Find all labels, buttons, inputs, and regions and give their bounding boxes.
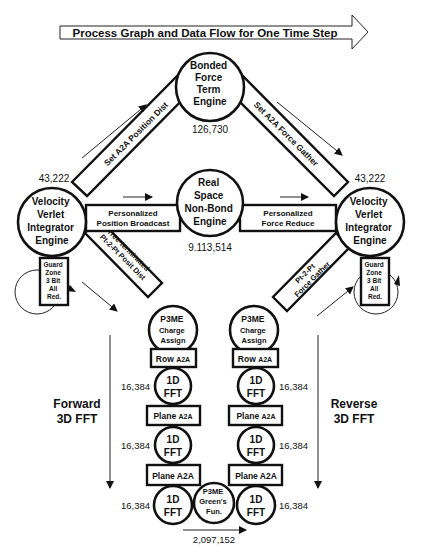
node-p3me-charge-assign-left: P3ME Charge Assign [149, 306, 197, 354]
svg-text:Position Broadcast: Position Broadcast [97, 219, 170, 228]
svg-text:16,384: 16,384 [121, 500, 150, 511]
title-banner-arrow: Process Graph and Data Flow for One Time… [60, 15, 368, 49]
svg-text:Forward3D FFT: Forward3D FFT [53, 397, 100, 426]
node-real-space-non-bond-engine: Real Space Non-Bond Engine 9.113,514 [177, 170, 243, 253]
svg-text:Force Reduce: Force Reduce [262, 219, 315, 228]
svg-text:Reverse3D FFT: Reverse3D FFT [331, 397, 378, 426]
svg-text:Personalized: Personalized [263, 209, 312, 218]
node-p3me-charge-assign-right: P3ME Charge Assign [230, 306, 278, 354]
label-forward-3d-fft: Forward3D FFT [53, 335, 110, 488]
bonded-count: 126,730 [192, 124, 229, 135]
vv-right-count: 43,222 [355, 173, 386, 184]
svg-text:16,384: 16,384 [279, 440, 308, 451]
svg-text:Plane A2A: Plane A2A [235, 471, 277, 481]
svg-text:16,384: 16,384 [279, 381, 308, 392]
label-reverse-3d-fft: Reverse3D FFT [318, 335, 378, 488]
svg-text:16,384: 16,384 [121, 440, 150, 451]
process-graph-diagram: Process Graph and Data Flow for One Time… [0, 0, 421, 559]
edge-personalized-position-broadcast: Personalized Position Broadcast [86, 205, 180, 231]
svg-text:Plane A2A: Plane A2A [152, 471, 194, 481]
svg-text:Row A2A: Row A2A [156, 354, 190, 364]
fft-column-left: Row A2A 1DFFT 16,384 Plane A2A 1DFFT 16,… [121, 349, 200, 524]
svg-text:Row A2A: Row A2A [238, 354, 272, 364]
svg-text:16,384: 16,384 [121, 381, 150, 392]
svg-text:Set A2A Position Dist: Set A2A Position Dist [102, 100, 170, 168]
svg-text:16,384: 16,384 [279, 500, 308, 511]
guard-zone-left: Guard Zone 3 Bit All Red. [15, 258, 76, 314]
edge-personalized-force-reduce: Personalized Force Reduce [240, 205, 336, 231]
node-p3me-greens-function: P3ME Green's Fun. 2,097,152 [183, 483, 246, 545]
svg-text:Plane A2A: Plane A2A [153, 411, 192, 421]
svg-text:2,097,152: 2,097,152 [193, 534, 235, 545]
realspace-count: 9.113,514 [188, 242, 232, 253]
guard-zone-right: Guard Zone 3 Bit All Red. [354, 258, 400, 314]
node-bonded-force-term-engine: Bonded Force Term Engine 126,730 [176, 53, 244, 135]
svg-text:Plane A2A: Plane A2A [236, 411, 275, 421]
flow-arrow-icon [82, 282, 117, 311]
svg-text:P3ME Charge Assign: P3ME Charge Assign [240, 314, 268, 345]
diagram-title: Process Graph and Data Flow for One Time… [73, 27, 338, 39]
flow-arrow-icon [317, 287, 353, 316]
svg-text:Personalized: Personalized [108, 209, 157, 218]
fft-column-right: Row A2A 1DFFT 16,384 Plane A2A 1DFFT 16,… [229, 349, 308, 524]
svg-text:P3ME Charge Assign: P3ME Charge Assign [159, 314, 187, 345]
vv-left-count: 43,222 [39, 173, 70, 184]
